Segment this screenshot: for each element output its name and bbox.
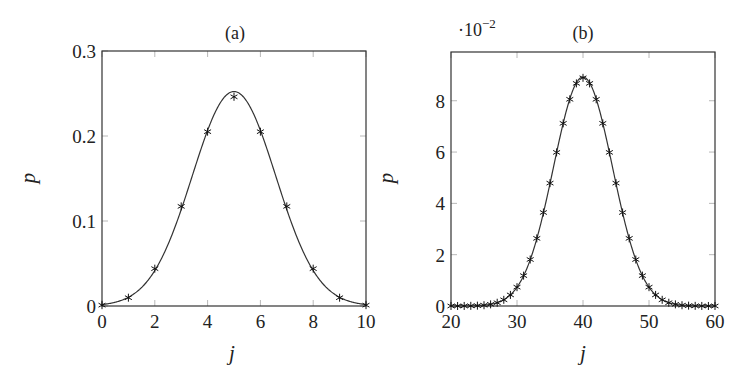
y-multiplier-label: ·10−2 [458, 16, 496, 40]
y-axis-label: p [374, 173, 398, 186]
x-tick-label: 0 [97, 311, 107, 332]
x-tick-label: 40 [574, 311, 593, 332]
star-marker-icon [547, 179, 554, 187]
star-marker-icon [632, 256, 639, 264]
star-marker-icon [566, 95, 573, 103]
star-marker-icon [659, 296, 666, 304]
star-marker-icon [257, 128, 264, 136]
x-tick-label: 8 [308, 311, 318, 332]
x-tick-label: 6 [256, 311, 266, 332]
axis-ticks [451, 52, 715, 306]
figure: 024681000.10.20.3(a)jp 203040506002468(b… [0, 0, 749, 390]
star-marker-icon [639, 272, 646, 280]
star-marker-icon [606, 148, 613, 156]
star-marker-icon [99, 301, 106, 309]
star-marker-icon [599, 119, 606, 127]
y-tick-label: 8 [436, 91, 446, 112]
plot-frame [102, 51, 366, 306]
chart-panel-b: 203040506002468(b)·10−2jp [374, 16, 725, 365]
x-tick-label: 50 [640, 311, 659, 332]
x-axis-label: j [577, 341, 586, 365]
x-axis-label: j [226, 341, 235, 365]
x-tick-label: 30 [508, 311, 527, 332]
star-marker-icon [231, 93, 238, 101]
y-axis-label: p [16, 173, 40, 186]
normal-curve [102, 92, 366, 305]
star-marker-icon [500, 296, 507, 304]
star-marker-icon [593, 95, 600, 103]
star-marker-icon [125, 294, 132, 302]
chart-panel-a: 024681000.10.20.3(a)jp [16, 23, 376, 365]
star-marker-icon [204, 128, 211, 136]
x-tick-label: 4 [203, 311, 213, 332]
y-tick-label: 0 [436, 296, 446, 317]
star-marker-icon [619, 209, 626, 217]
star-marker-icon [336, 294, 343, 302]
star-marker-icon [553, 148, 560, 156]
plot-frame [451, 52, 715, 306]
x-tick-label: 10 [357, 311, 376, 332]
star-marker-icon [626, 234, 633, 242]
star-marker-icon [613, 179, 620, 187]
y-tick-label: 0.2 [72, 126, 96, 147]
data-markers [448, 74, 719, 310]
y-tick-label: 0 [87, 296, 97, 317]
y-tick-label: 2 [436, 245, 446, 266]
chart-title: (a) [225, 23, 245, 44]
x-tick-label: 2 [150, 311, 160, 332]
y-tick-label: 6 [436, 142, 446, 163]
star-marker-icon [363, 301, 370, 309]
star-marker-icon [533, 234, 540, 242]
axis-ticks [102, 51, 366, 306]
star-marker-icon [560, 119, 567, 127]
y-tick-label: 0.3 [72, 41, 96, 62]
data-markers [99, 93, 370, 309]
normal-curve [451, 77, 715, 306]
star-marker-icon [540, 209, 547, 217]
y-tick-label: 0.1 [72, 211, 96, 232]
chart-title: (b) [573, 23, 594, 44]
star-marker-icon [527, 256, 534, 264]
x-tick-label: 60 [706, 311, 725, 332]
star-marker-icon [520, 272, 527, 280]
y-tick-label: 4 [436, 193, 446, 214]
